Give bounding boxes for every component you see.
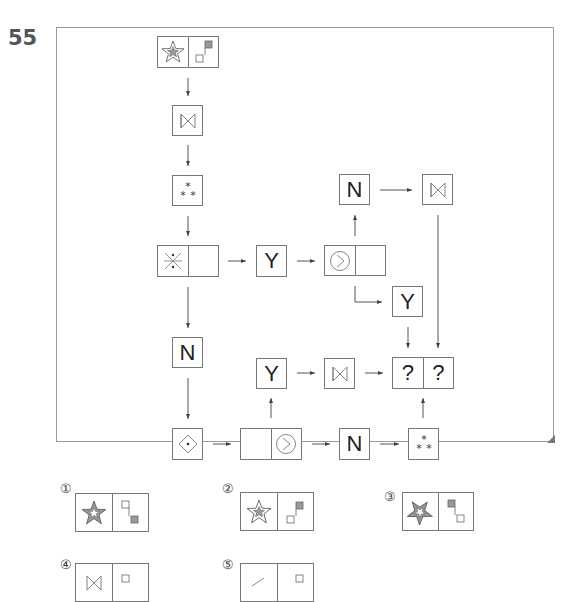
three-asterisks-icon: *** <box>413 433 435 455</box>
n-node-left: N <box>172 337 203 368</box>
y-node-right: Y <box>392 286 423 317</box>
n-node-top: N <box>339 174 370 205</box>
option-5[interactable] <box>240 563 314 602</box>
y-label: Y <box>264 250 279 272</box>
y-label: Y <box>400 291 415 313</box>
star-icon <box>407 499 433 525</box>
svg-text:*: * <box>180 189 186 202</box>
option-4-label: ④ <box>60 557 72 572</box>
x-node-empty-cell <box>188 246 219 276</box>
n-label: N <box>180 342 196 364</box>
option-1[interactable] <box>75 493 149 532</box>
circle-chevron-icon <box>329 250 351 272</box>
diamond-dot-icon <box>177 433 199 455</box>
star-in-star-icon <box>161 40 185 64</box>
two-squares-icon <box>444 498 468 526</box>
y-label: Y <box>264 363 279 385</box>
star-icon <box>246 499 272 525</box>
option-3-label: ③ <box>384 489 396 504</box>
circle-chevron-icon <box>275 433 297 455</box>
svg-text:*: * <box>416 442 422 455</box>
bowtie-icon <box>85 574 103 592</box>
asterisks-node-1: *** <box>172 175 203 206</box>
svg-text:*: * <box>426 442 432 455</box>
bowtie-icon <box>331 365 349 383</box>
two-squares-icon <box>283 498 307 526</box>
two-squares-icon <box>118 499 142 527</box>
square-icon <box>118 571 142 595</box>
asterisks-node-bottom: *** <box>408 428 439 460</box>
empty-circle-node-empty-cell <box>241 429 271 459</box>
circle-node <box>324 245 386 276</box>
bowtie-node-mid <box>324 358 355 389</box>
answer-node: ? ? <box>392 357 454 389</box>
bowtie-node-1 <box>172 105 203 136</box>
option-5-label: ⑤ <box>222 557 234 572</box>
svg-text:*: * <box>190 189 196 202</box>
two-squares-icon <box>191 39 215 65</box>
bowtie-icon <box>429 181 447 199</box>
n-label: N <box>347 433 363 455</box>
question-mark-left: ? <box>402 362 414 384</box>
diamond-node <box>172 428 203 460</box>
x-dots-icon <box>162 250 184 272</box>
bowtie-node-top <box>422 174 453 205</box>
circle-node-empty-cell <box>355 246 386 275</box>
empty-circle-node <box>240 428 302 460</box>
n-label: N <box>347 179 363 201</box>
option-1-label: ① <box>60 481 72 496</box>
option-2[interactable] <box>240 492 314 531</box>
option-3[interactable] <box>402 492 474 531</box>
partial-shape-icon <box>250 574 268 592</box>
start-node-squares-cell <box>188 37 219 67</box>
y-node-mid: Y <box>256 358 287 389</box>
question-mark-right: ? <box>432 362 444 384</box>
option-2-label: ② <box>222 481 234 496</box>
start-node-star-cell <box>158 37 188 67</box>
start-node <box>157 36 219 68</box>
x-node <box>157 245 219 277</box>
option-4[interactable] <box>75 563 149 602</box>
n-node-bottom: N <box>339 428 370 460</box>
square-icon <box>283 571 307 595</box>
y-node-1: Y <box>256 245 287 277</box>
bowtie-icon <box>179 112 197 130</box>
three-asterisks-icon: *** <box>177 180 199 202</box>
star-icon <box>81 500 107 526</box>
